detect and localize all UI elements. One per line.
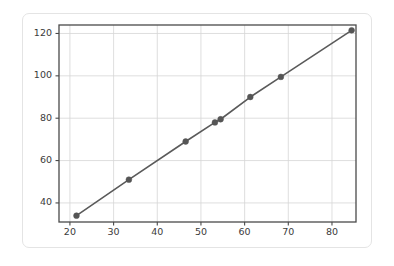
data-point-marker bbox=[278, 74, 284, 80]
axis-ticks bbox=[56, 33, 332, 225]
data-point-marker bbox=[349, 27, 355, 33]
line-chart: 406080100120 20304050607080 bbox=[0, 0, 394, 266]
x-axis-tick-label: 30 bbox=[108, 226, 120, 237]
data-point-marker bbox=[183, 139, 189, 145]
y-axis-tick-label: 60 bbox=[40, 154, 52, 165]
plot-frame bbox=[59, 25, 356, 222]
x-axis-tick-label: 60 bbox=[239, 226, 251, 237]
plot-border bbox=[59, 25, 356, 222]
x-axis-tick-label: 40 bbox=[151, 226, 163, 237]
y-axis-tick-label: 120 bbox=[34, 27, 52, 38]
chart-screenshot: 406080100120 20304050607080 bbox=[0, 0, 394, 266]
x-axis-tick-label: 20 bbox=[64, 226, 76, 237]
data-point-marker bbox=[247, 94, 253, 100]
x-axis-tick-label: 80 bbox=[326, 226, 338, 237]
y-axis-tick-label: 40 bbox=[40, 196, 52, 207]
grid-lines bbox=[59, 25, 356, 222]
x-axis-tick-label: 70 bbox=[282, 226, 294, 237]
data-point-marker bbox=[126, 177, 132, 183]
y-axis-tick-label: 100 bbox=[34, 69, 52, 80]
x-axis-tick-label: 50 bbox=[195, 226, 207, 237]
data-point-marker bbox=[218, 116, 224, 122]
x-axis-tick-labels: 20304050607080 bbox=[64, 226, 338, 237]
data-point-marker bbox=[212, 120, 218, 126]
data-point-marker bbox=[74, 213, 80, 219]
y-axis-tick-labels: 406080100120 bbox=[34, 27, 52, 207]
y-axis-tick-label: 80 bbox=[40, 112, 52, 123]
